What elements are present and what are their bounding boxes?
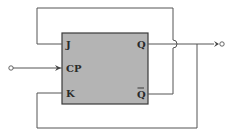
circuit-svg: J CP K Q Q bbox=[0, 0, 229, 135]
output-arrow-icon bbox=[214, 41, 219, 47]
label-q: Q bbox=[137, 39, 146, 50]
jk-flip-flop-diagram: J CP K Q Q bbox=[0, 0, 229, 135]
clock-input-terminal bbox=[9, 66, 13, 70]
label-cp: CP bbox=[66, 63, 82, 74]
label-qbar: Q bbox=[137, 89, 146, 100]
output-terminal bbox=[220, 42, 224, 46]
qbar-feedback-wire-lower bbox=[148, 48, 173, 94]
label-k: K bbox=[66, 88, 75, 99]
label-j: J bbox=[65, 39, 71, 50]
